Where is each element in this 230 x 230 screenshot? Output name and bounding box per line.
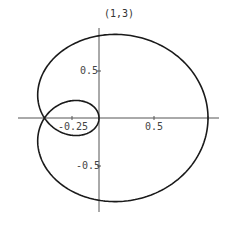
- x-tick-label-neg: -0.25: [58, 121, 88, 132]
- x-tick-label-pos: 0.5: [145, 121, 163, 132]
- y-tick-label-pos: 0.5: [80, 65, 98, 76]
- polar-plot: [0, 0, 230, 230]
- y-tick-label-neg: -0.5: [76, 160, 100, 171]
